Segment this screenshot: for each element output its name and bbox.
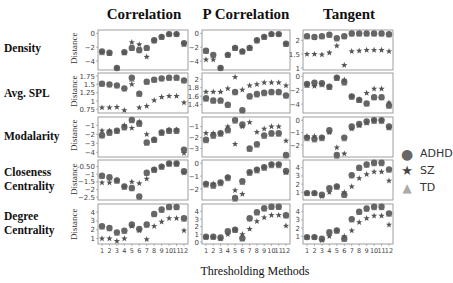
sz-point [159,219,165,225]
x-tick-label: 9 [365,247,369,255]
adhd-point [151,76,157,82]
sz-point [371,213,377,219]
adhd-point [371,160,377,166]
y-tick-label: −3 [85,140,95,148]
sz-point [203,89,209,95]
sz-point [364,47,370,53]
sz-point [341,151,347,157]
adhd-point [158,75,164,81]
adhd-point [144,221,150,227]
sz-point [283,82,289,88]
y-tick-label: 3 [296,172,300,180]
adhd-point [261,90,267,96]
x-tick-label: 1 [204,247,208,255]
adhd-point [99,223,105,229]
y-tick-label: 2 [296,37,300,45]
adhd-point [371,30,377,36]
adhd-point [210,97,216,103]
x-tick-label: 6 [342,247,346,255]
y-tick-label: 0.75 [79,106,95,114]
adhd-point [239,107,245,113]
y-tick-label: −4 [85,149,96,157]
x-tick-label: 9 [160,247,164,255]
y-tick-label: 0 [195,160,199,168]
adhd-point [254,91,260,97]
sz-point [144,236,150,242]
x-tick-label: 2 [211,247,215,255]
sz-point [106,104,112,110]
adhd-point [232,89,238,95]
adhd-point [239,235,245,241]
sz-point [173,215,179,221]
sz-point [326,50,332,56]
sz-point [232,141,238,147]
adhd-point [319,33,325,39]
sz-point [144,131,150,137]
adhd-point [114,229,120,235]
adhd-point [356,209,362,215]
y-tick-label: 0 [296,73,300,81]
sz-point [181,227,187,233]
x-tick-label: 5 [130,247,134,255]
sz-point [364,90,370,96]
x-tick-label: 2 [312,247,316,255]
sz-point [166,93,172,99]
adhd-point [378,204,384,210]
adhd-point [225,101,231,107]
y-tick-label: −2.5 [78,194,95,202]
sz-point [254,218,260,224]
legend-label: ADHD [420,147,453,160]
sz-point [181,99,187,105]
y-tick-label: 4 [91,209,96,217]
y-tick-label: 1.5 [84,81,95,89]
adhd-point [203,95,209,101]
x-tick-label: 4 [327,247,331,255]
adhd-point [334,35,340,41]
x-tick-label: 4 [226,247,230,255]
adhd-point [268,89,274,95]
y-tick-label: −4 [290,101,301,109]
sz-point [268,212,274,218]
sz-point [136,104,142,110]
adhd-point [181,215,187,221]
y-tick-label: 1 [296,233,300,241]
adhd-point [386,210,392,216]
x-tick-label: 1 [305,247,309,255]
adhd-point [136,47,142,53]
legend-item-td: ▲TD [400,179,453,196]
y-tick-label: 3 [91,217,95,225]
adhd-point [363,100,369,106]
y-tick-label: −2 [189,134,199,142]
adhd-point [99,80,105,86]
y-tick-label: 1.4 [188,101,200,109]
y-tick-label: 1.5 [289,51,300,59]
sz-point [106,235,112,241]
sz-point [247,82,253,88]
y-tick-label: 1.75 [79,73,95,81]
x-axis-label: Thresholding Methods [160,264,350,279]
adhd-point [166,74,172,80]
adhd-point [181,77,187,83]
sz-point [378,47,384,53]
adhd-point [99,173,105,179]
y-tick-label: −2 [85,131,95,139]
y-tick-label: 2 [296,181,300,189]
sz-point [232,187,238,193]
y-tick-label: −1 [290,129,300,137]
x-tick-label: 8 [357,247,361,255]
adhd-point [341,33,347,39]
adhd-point [144,139,150,145]
sz-point [99,179,105,185]
sz-point [121,107,127,113]
y-tick-label: 0 [195,30,199,38]
adhd-point [283,92,289,98]
y-tick-label: 4 [296,164,301,172]
y-tick-label: −2 [189,44,199,52]
sz-point [276,79,282,85]
panel-frame [98,117,188,157]
adhd-point [144,78,150,84]
sz-point [225,85,231,91]
x-tick-label: 7 [145,247,149,255]
sz-point [334,43,340,49]
sz-point [210,89,216,95]
